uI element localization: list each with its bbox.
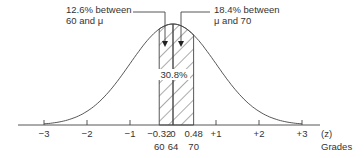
- x-tick-label-z: 0: [170, 128, 175, 139]
- right-annotation-line-1: 18.4% between: [214, 4, 280, 15]
- x-axis-grades-label: Grades: [321, 141, 352, 152]
- x-tick-label-grade: 60: [154, 141, 165, 152]
- annotations: 12.6% between 60 and μ 18.4% between μ a…: [66, 4, 352, 152]
- x-axis-z-label: (z): [321, 128, 332, 139]
- x-tick-label-z: +2: [254, 128, 265, 139]
- normal-distribution-chart: −3−2−1−0.3200.48+1+2+3606470 12.6% betwe…: [0, 0, 364, 158]
- x-tick-label-grade: 70: [188, 141, 199, 152]
- right-annotation-line-2: μ and 70: [214, 15, 251, 26]
- x-tick-label-z: −3: [39, 128, 50, 139]
- left-annotation-line-2: 60 and μ: [66, 15, 103, 26]
- x-tick-label-grade: 64: [168, 141, 179, 152]
- x-tick-label-z: +1: [211, 128, 222, 139]
- left-annotation-line-1: 12.6% between: [66, 4, 132, 15]
- x-tick-label-z: −0.32: [147, 128, 171, 139]
- x-tick-label-z: −1: [125, 128, 136, 139]
- total-percent-label: 30.8%: [161, 69, 188, 80]
- x-tick-label-z: 0.48: [184, 128, 203, 139]
- x-tick-label-z: +3: [297, 128, 308, 139]
- x-tick-label-z: −2: [82, 128, 93, 139]
